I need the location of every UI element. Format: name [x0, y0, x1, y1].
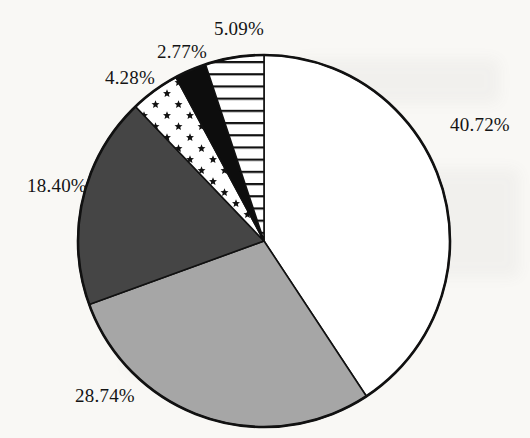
pie-label-white-slice: 40.72%: [450, 114, 510, 136]
scanned-page: 40.72% 28.74% 18.40% 4.28% 2.77% 5.09%: [0, 0, 530, 438]
pie-slices-group: [78, 55, 450, 427]
pie-label-star-pattern-slice: 4.28%: [105, 67, 155, 89]
pie-label-medium-gray-slice: 28.74%: [75, 385, 135, 407]
pie-label-striped-slice: 5.09%: [214, 18, 264, 40]
pie-label-black-slice: 2.77%: [157, 41, 207, 63]
pie-label-dark-gray-slice: 18.40%: [27, 175, 87, 197]
pie-chart: [0, 0, 530, 438]
